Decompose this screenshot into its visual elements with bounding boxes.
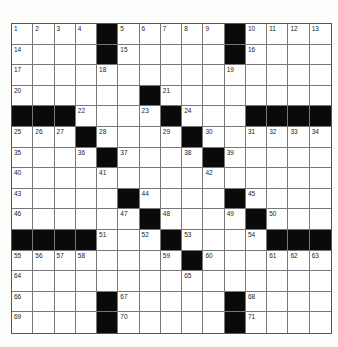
grid-cell[interactable]: 62 [288,251,309,272]
grid-cell[interactable] [310,45,331,66]
grid-cell[interactable]: 70 [118,312,139,333]
grid-cell[interactable] [161,65,182,86]
grid-cell[interactable]: 69 [12,312,33,333]
grid-cell[interactable] [203,189,224,210]
grid-cell[interactable]: 9 [203,24,224,45]
grid-cell[interactable]: 57 [55,251,76,272]
grid-cell[interactable]: 36 [76,148,97,169]
grid-cell[interactable] [76,312,97,333]
grid-cell[interactable] [267,45,288,66]
grid-cell[interactable] [33,148,54,169]
grid-cell[interactable] [182,168,203,189]
grid-cell[interactable] [310,65,331,86]
grid-cell[interactable] [76,292,97,313]
grid-cell[interactable] [225,106,246,127]
grid-cell[interactable]: 2 [33,24,54,45]
grid-cell[interactable] [182,209,203,230]
grid-cell[interactable]: 44 [140,189,161,210]
grid-cell[interactable]: 47 [118,209,139,230]
grid-cell[interactable] [55,148,76,169]
grid-cell[interactable] [288,271,309,292]
grid-cell[interactable] [55,189,76,210]
grid-cell[interactable] [310,271,331,292]
grid-cell[interactable] [310,292,331,313]
grid-cell[interactable] [267,292,288,313]
grid-cell[interactable] [161,292,182,313]
grid-cell[interactable]: 41 [97,168,118,189]
grid-cell[interactable] [76,45,97,66]
grid-cell[interactable] [33,86,54,107]
grid-cell[interactable]: 67 [118,292,139,313]
grid-cell[interactable] [225,86,246,107]
grid-cell[interactable] [246,251,267,272]
grid-cell[interactable] [288,45,309,66]
grid-cell[interactable]: 15 [118,45,139,66]
grid-cell[interactable] [161,168,182,189]
grid-cell[interactable] [288,86,309,107]
grid-cell[interactable]: 35 [12,148,33,169]
grid-cell[interactable]: 34 [310,127,331,148]
grid-cell[interactable]: 11 [267,24,288,45]
grid-cell[interactable] [97,189,118,210]
grid-cell[interactable]: 13 [310,24,331,45]
grid-cell[interactable]: 42 [203,168,224,189]
grid-cell[interactable] [55,292,76,313]
grid-cell[interactable]: 6 [140,24,161,45]
grid-cell[interactable] [76,65,97,86]
grid-cell[interactable]: 59 [161,251,182,272]
grid-cell[interactable] [310,209,331,230]
grid-cell[interactable] [118,65,139,86]
grid-cell[interactable] [267,65,288,86]
grid-cell[interactable] [55,45,76,66]
grid-cell[interactable]: 33 [288,127,309,148]
grid-cell[interactable]: 28 [97,127,118,148]
grid-cell[interactable]: 8 [182,24,203,45]
grid-cell[interactable]: 54 [246,230,267,251]
grid-cell[interactable]: 18 [97,65,118,86]
grid-cell[interactable] [118,127,139,148]
grid-cell[interactable]: 66 [12,292,33,313]
grid-cell[interactable] [246,148,267,169]
grid-cell[interactable] [33,65,54,86]
grid-cell[interactable] [161,189,182,210]
grid-cell[interactable]: 25 [12,127,33,148]
grid-cell[interactable]: 19 [225,65,246,86]
grid-cell[interactable] [97,86,118,107]
grid-cell[interactable] [55,209,76,230]
grid-cell[interactable] [267,168,288,189]
grid-cell[interactable] [55,312,76,333]
grid-cell[interactable] [288,312,309,333]
grid-cell[interactable]: 1 [12,24,33,45]
grid-cell[interactable]: 10 [246,24,267,45]
grid-cell[interactable] [140,148,161,169]
grid-cell[interactable]: 26 [33,127,54,148]
grid-cell[interactable] [140,312,161,333]
grid-cell[interactable] [288,209,309,230]
grid-cell[interactable]: 48 [161,209,182,230]
grid-cell[interactable]: 52 [140,230,161,251]
grid-cell[interactable] [140,65,161,86]
grid-cell[interactable]: 29 [161,127,182,148]
grid-cell[interactable] [203,230,224,251]
grid-cell[interactable]: 14 [12,45,33,66]
grid-cell[interactable] [203,271,224,292]
grid-cell[interactable] [118,230,139,251]
grid-cell[interactable]: 17 [12,65,33,86]
grid-cell[interactable]: 4 [76,24,97,45]
grid-cell[interactable] [97,209,118,230]
grid-cell[interactable] [140,168,161,189]
grid-cell[interactable] [97,271,118,292]
grid-cell[interactable] [33,209,54,230]
grid-cell[interactable]: 22 [76,106,97,127]
grid-cell[interactable] [288,148,309,169]
grid-cell[interactable]: 50 [267,209,288,230]
grid-cell[interactable] [310,189,331,210]
grid-cell[interactable]: 53 [182,230,203,251]
grid-cell[interactable]: 51 [97,230,118,251]
grid-cell[interactable] [267,148,288,169]
grid-cell[interactable] [225,271,246,292]
grid-cell[interactable] [182,86,203,107]
grid-cell[interactable] [33,292,54,313]
grid-cell[interactable]: 68 [246,292,267,313]
grid-cell[interactable] [182,312,203,333]
